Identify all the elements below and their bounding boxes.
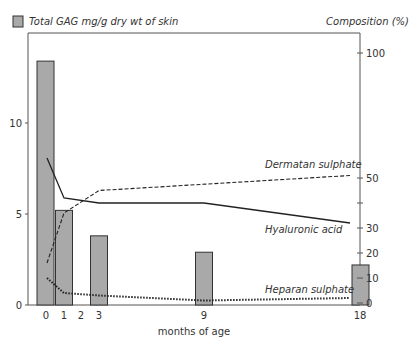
legend-swatch-total-gag xyxy=(13,16,23,27)
x-axis: 0123918 xyxy=(43,310,367,321)
right-axis-title: Composition (%) xyxy=(326,16,409,27)
x-tick-3: 3 xyxy=(96,310,102,321)
x-tick-2: 2 xyxy=(78,310,84,321)
left-tick-0: 0 xyxy=(16,300,22,311)
left-tick-10: 10 xyxy=(9,118,22,129)
total-gag-bars xyxy=(37,61,369,305)
bar-month-1 xyxy=(56,210,73,305)
right-tick-20: 20 xyxy=(366,248,379,259)
label-dermatan-sulphate: Dermatan sulphate xyxy=(265,159,362,170)
bar-month-0 xyxy=(37,61,54,305)
x-axis-title: months of age xyxy=(158,326,230,337)
left-axis-title: Total GAG mg/g dry wt of skin xyxy=(29,16,178,27)
right-tick-100: 100 xyxy=(366,48,385,59)
label-heparan-sulphate: Heparan sulphate xyxy=(265,284,354,295)
x-tick-1: 1 xyxy=(61,310,67,321)
left-axis: 0510 xyxy=(9,118,28,311)
left-tick-5: 5 xyxy=(16,209,22,220)
x-tick-18: 18 xyxy=(354,310,367,321)
right-tick-0: 0 xyxy=(366,298,372,309)
chart: Total GAG mg/g dry wt of skin Compositio… xyxy=(0,0,417,348)
right-tick-30: 30 xyxy=(366,223,379,234)
label-hyaluronic-acid: Hyaluronic acid xyxy=(265,224,343,235)
right-tick-50: 50 xyxy=(366,173,379,184)
x-tick-0: 0 xyxy=(43,310,49,321)
right-tick-10: 10 xyxy=(366,273,379,284)
x-tick-9: 9 xyxy=(201,310,207,321)
bar-month-9 xyxy=(196,252,213,305)
